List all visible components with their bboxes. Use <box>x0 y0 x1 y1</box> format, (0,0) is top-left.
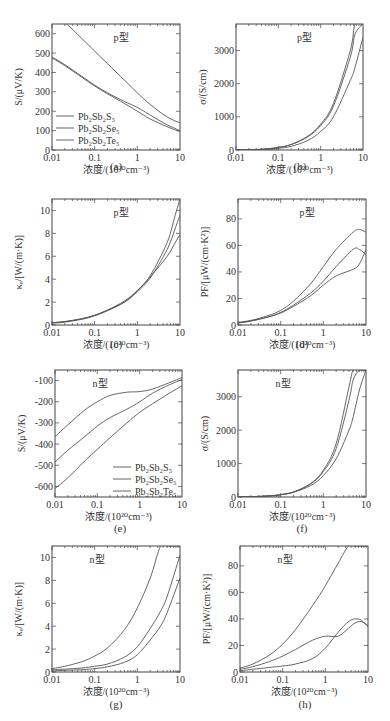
y-tick-label: -500 <box>35 460 53 471</box>
y-tick-label: 400 <box>35 67 50 78</box>
y-axis-label: σ/(S/cm) <box>197 69 209 104</box>
x-tick-label: 10 <box>175 152 185 163</box>
x-tick-label: 0.1 <box>88 327 101 338</box>
x-tick-label: 10 <box>175 674 185 685</box>
x-tick-label: 0.1 <box>88 674 101 685</box>
panel-title: p型 <box>114 31 129 43</box>
x-tick-label: 10 <box>361 327 371 338</box>
plot-panel-c: 0.010.11100246810浓度/(10²⁰cm⁻³)κₑ/[W/(m·K… <box>13 199 185 351</box>
x-tick-label: 0.1 <box>274 327 287 338</box>
panel-label-a: (a) <box>96 160 136 172</box>
x-tick-label: 0.1 <box>274 499 287 510</box>
panel-title: n型 <box>278 553 293 565</box>
series-line <box>52 57 180 131</box>
y-tick-label: -300 <box>35 417 53 428</box>
panel-title: p型 <box>300 206 315 218</box>
y-tick-label: 100 <box>35 125 50 136</box>
y-tick-label: 2000 <box>214 78 234 89</box>
x-tick-label: 1 <box>321 499 326 510</box>
panel-label-h: (h) <box>285 698 325 710</box>
panel-label-b: (b) <box>280 160 320 172</box>
y-tick-label: 40 <box>228 613 238 624</box>
series-line <box>240 545 368 668</box>
series-line <box>236 37 363 150</box>
y-tick-label: 60 <box>228 587 238 598</box>
y-tick-label: 8 <box>45 228 50 239</box>
y-tick-label: 300 <box>35 86 50 97</box>
y-tick-label: 1000 <box>216 458 236 469</box>
y-tick-label: 0 <box>231 492 236 503</box>
y-tick-label: 10 <box>40 205 50 216</box>
series-line <box>55 377 182 436</box>
panel-label-g: (g) <box>96 698 136 710</box>
y-tick-label: 200 <box>35 106 50 117</box>
y-tick-label: 10 <box>40 552 50 563</box>
series-line <box>238 248 366 323</box>
x-tick-label: 10 <box>361 499 371 510</box>
x-tick-label: 0.01 <box>46 499 64 510</box>
x-tick-label: 10 <box>363 674 373 685</box>
y-tick-label: 4 <box>45 621 50 632</box>
y-tick-label: 60 <box>226 240 236 251</box>
y-tick-label: -400 <box>35 439 53 450</box>
y-tick-label: 2 <box>45 644 50 655</box>
y-tick-label: -100 <box>35 375 53 386</box>
y-axis-label: κₑ/[W/(m·K)] <box>13 235 25 289</box>
y-tick-label: 1000 <box>214 111 234 122</box>
y-tick-label: 3000 <box>214 45 234 56</box>
panel-title: p型 <box>114 206 129 218</box>
y-tick-label: 0 <box>45 667 50 678</box>
x-tick-label: 1 <box>321 327 326 338</box>
plot-panel-h: 0.010.1110020406080浓度/(10²⁰cm⁻³)PF/[μW/(… <box>201 545 373 698</box>
plot-panel-e: 0.010.1110-600-500-400-300-200-100浓度/(10… <box>16 370 187 523</box>
y-tick-label: 80 <box>226 213 236 224</box>
x-tick-label: 1 <box>137 499 142 510</box>
series-line <box>52 10 180 123</box>
panel-title: p型 <box>297 31 312 43</box>
plot-panel-g: 0.010.11100246810浓度/(10²⁰cm⁻³)κₑ/[W/(m·K… <box>13 544 185 698</box>
y-tick-label: 3000 <box>216 391 236 402</box>
y-axis-label: PF/[μW/(cm·K²)] <box>201 574 213 645</box>
x-tick-label: 1 <box>135 327 140 338</box>
y-tick-label: 20 <box>228 640 238 651</box>
x-tick-label: 0.1 <box>276 674 289 685</box>
axes-frame <box>52 546 180 672</box>
y-tick-label: 0 <box>231 320 236 331</box>
x-axis-label: 浓度/(10²⁰cm⁻³) <box>83 685 150 698</box>
y-tick-label: 500 <box>35 48 50 59</box>
series-line <box>52 544 180 669</box>
y-axis-label: S/(μV/K) <box>16 415 28 453</box>
y-tick-label: 0 <box>45 145 50 156</box>
panel-label-e: (e) <box>100 522 140 534</box>
y-tick-label: 2 <box>45 297 50 308</box>
y-tick-label: 0 <box>229 145 234 156</box>
x-axis-label: 浓度/(10²⁰cm⁻³) <box>271 685 338 698</box>
panel-title: n型 <box>276 377 291 389</box>
figure: 0.010.11100100200300400500600浓度/(10²⁰cm⁻… <box>0 0 390 721</box>
y-axis-label: κₑ/[W/(m·K)] <box>13 582 25 636</box>
x-tick-label: 10 <box>358 152 368 163</box>
legend-entry: Pb₂Sb₂S₅ <box>78 111 115 122</box>
plots-canvas: 0.010.11100100200300400500600浓度/(10²⁰cm⁻… <box>0 0 390 721</box>
y-tick-label: 0 <box>45 320 50 331</box>
panel-label-c: (c) <box>96 338 136 350</box>
plot-panel-a: 0.010.11100100200300400500600浓度/(10²⁰cm⁻… <box>13 10 185 176</box>
y-tick-label: 4 <box>45 274 50 285</box>
y-tick-label: 2000 <box>216 425 236 436</box>
series-line <box>55 380 182 463</box>
y-axis-label: σ/(S/cm) <box>199 416 211 451</box>
axes-frame <box>238 370 366 497</box>
series-line <box>238 370 366 497</box>
series-line <box>52 235 180 324</box>
panel-label-f: (f) <box>282 522 322 534</box>
x-tick-label: 1 <box>323 674 328 685</box>
axes-frame <box>240 546 368 672</box>
panel-title: n型 <box>90 553 105 565</box>
x-tick-label: 10 <box>177 499 187 510</box>
y-tick-label: 8 <box>45 575 50 586</box>
y-tick-label: -600 <box>35 481 53 492</box>
series-line <box>52 578 180 671</box>
legend-entry: Pb₂Sb₂Se₅ <box>135 474 177 485</box>
panel-label-d: (d) <box>282 338 322 350</box>
y-tick-label: -200 <box>35 396 53 407</box>
